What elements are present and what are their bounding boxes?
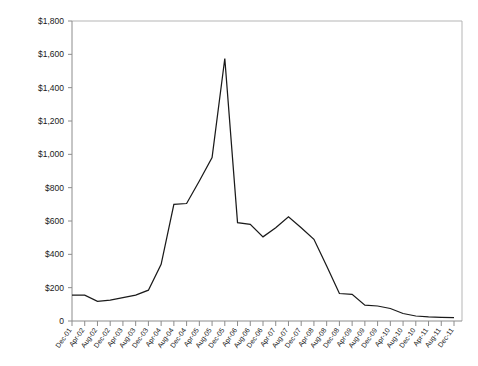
y-tick-label: $1,600 (38, 49, 64, 59)
y-tick-label: $800 (45, 183, 64, 193)
y-tick-label: $1,000 (38, 149, 64, 159)
y-tick-label: $600 (45, 216, 64, 226)
y-tick-label: $400 (45, 249, 64, 259)
y-tick-label: $1,400 (38, 83, 64, 93)
chart-canvas: 0$200$400$600$800$1,000$1,200$1,400$1,60… (0, 0, 478, 366)
nominal-price-line-chart: 0$200$400$600$800$1,000$1,200$1,400$1,60… (0, 0, 478, 366)
y-tick-label: 0 (59, 316, 64, 326)
y-tick-label: $200 (45, 283, 64, 293)
y-tick-label: $1,800 (38, 16, 64, 26)
y-tick-label: $1,200 (38, 116, 64, 126)
